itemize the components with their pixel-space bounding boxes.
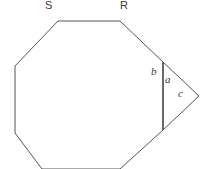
geometry-figure: S R b a c — [0, 0, 206, 169]
vertex-label-s: S — [45, 0, 52, 11]
octagon-outline — [15, 21, 163, 169]
angle-label-c: c — [178, 88, 183, 99]
angle-label-b: b — [151, 66, 157, 77]
vertex-label-r: R — [120, 0, 128, 11]
figure-canvas — [0, 0, 206, 169]
angle-label-a: a — [165, 74, 171, 85]
